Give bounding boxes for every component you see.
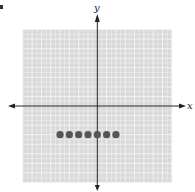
x-axis-left-arrow-icon <box>8 104 15 109</box>
x-axis-right-arrow-icon <box>179 104 186 109</box>
y-axis-down-arrow-icon <box>95 185 100 191</box>
y-axis-label: y <box>93 2 100 13</box>
data-point <box>103 131 110 138</box>
data-point <box>75 131 82 138</box>
data-point <box>112 131 119 138</box>
coordinate-plane: x y <box>0 0 195 192</box>
data-point <box>56 131 63 138</box>
x-axis-label: x <box>187 100 193 111</box>
data-point <box>66 131 73 138</box>
data-point <box>94 131 101 138</box>
y-axis-up-arrow-icon <box>95 14 100 22</box>
data-point <box>84 131 91 138</box>
